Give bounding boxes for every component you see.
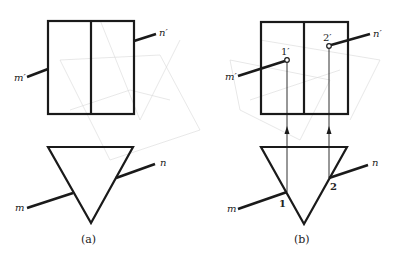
label-n: n <box>160 157 166 168</box>
point-1-prime-marker <box>285 58 290 63</box>
panel-a: m′ n′ m n (a) <box>14 21 168 246</box>
label-point-2-prime: 2′ <box>323 32 332 43</box>
projection-lines <box>285 49 332 193</box>
line-m <box>27 193 73 208</box>
line-n-prime <box>331 34 370 45</box>
label-point-1: 1 <box>279 198 286 209</box>
panel-b: m′ n′ 1′ 2′ m n 1 2 (b) <box>225 22 382 246</box>
front-view-a: m′ n′ <box>14 21 168 114</box>
line-n-prime <box>134 34 156 41</box>
label-m-prime: m′ <box>14 72 26 83</box>
arrow-up-icon <box>327 126 332 134</box>
label-point-2: 2 <box>330 181 337 192</box>
prism-top-triangle <box>48 147 133 223</box>
label-m: m <box>15 202 24 213</box>
label-n: n <box>372 157 378 168</box>
background-watermark <box>60 20 380 160</box>
point-2-prime-marker <box>327 44 332 49</box>
top-view-b: m n 1 2 <box>227 147 378 224</box>
arrow-up-icon <box>285 126 290 134</box>
front-view-b: m′ n′ 1′ 2′ <box>225 22 382 114</box>
caption-a: (a) <box>81 233 96 246</box>
projection-diagram: m′ n′ m n (a) m′ n′ 1′ 2′ <box>0 0 393 254</box>
line-m-prime <box>27 69 48 77</box>
label-m: m <box>227 203 236 214</box>
top-view-a: m n <box>15 147 166 223</box>
caption-b: (b) <box>294 233 310 246</box>
label-m-prime: m′ <box>225 71 237 82</box>
label-n-prime: n′ <box>159 27 168 38</box>
label-n-prime: n′ <box>373 28 382 39</box>
label-point-1-prime: 1′ <box>281 46 290 57</box>
